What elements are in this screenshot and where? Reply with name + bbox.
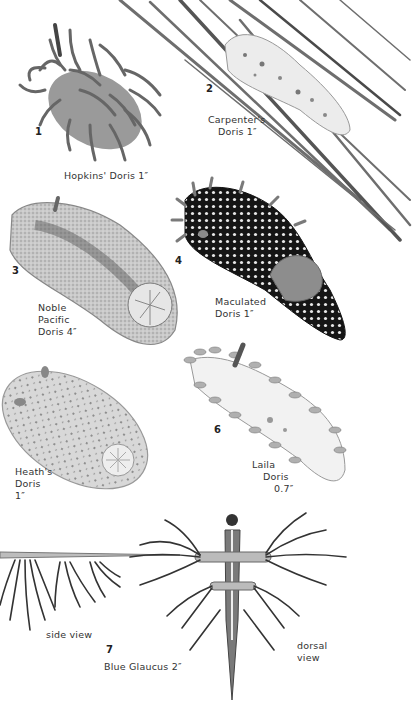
label-line: Doris 1″ [215, 308, 266, 320]
label-line: Doris [15, 478, 53, 490]
label-line: 0.7″ [252, 483, 293, 495]
label-line: Doris 1″ [208, 126, 266, 138]
specimen-number-2: 2 [206, 83, 213, 94]
specimen-label-hopkins-doris: Hopkins' Doris 1″ [64, 170, 148, 182]
noble-pacific-doris-drawing [10, 198, 177, 344]
specimen-number-6: 6 [214, 424, 221, 435]
specimen-label-maculated-doris: Maculated Doris 1″ [215, 296, 266, 320]
label-line: view [297, 652, 327, 664]
specimen-label-blue-glaucus: Blue Glaucus 2″ [104, 661, 182, 673]
label-line: Carpenter's [208, 114, 266, 126]
label-line: 1″ [15, 490, 53, 502]
specimen-label-heaths-doris: Heath's Doris 1″ [15, 466, 53, 502]
label-line: Pacific [38, 314, 77, 326]
hopkins-doris-drawing [20, 25, 160, 165]
label-line: Doris [252, 471, 293, 483]
label-line: Heath's [15, 466, 53, 478]
view-label-dorsal: dorsal view [297, 640, 327, 664]
label-line: Maculated [215, 296, 266, 308]
label-line: Noble [38, 302, 77, 314]
specimen-number-4: 4 [175, 255, 182, 266]
specimen-label-carpenters-doris: Carpenter's Doris 1″ [208, 114, 266, 138]
specimen-label-laila-doris: Laila Doris 0.7″ [252, 459, 293, 495]
view-label-side: side view [46, 629, 92, 641]
label-line: Doris 4″ [38, 326, 77, 338]
blue-glaucus-side-view-drawing [0, 552, 180, 630]
label-line: Laila [252, 459, 293, 471]
specimen-label-noble-pacific-doris: Noble Pacific Doris 4″ [38, 302, 77, 338]
illustration-plate [0, 0, 416, 721]
specimen-number-1: 1 [35, 126, 42, 137]
label-line: dorsal [297, 640, 327, 652]
specimen-number-3: 3 [12, 265, 19, 276]
specimen-number-7: 7 [106, 644, 113, 655]
